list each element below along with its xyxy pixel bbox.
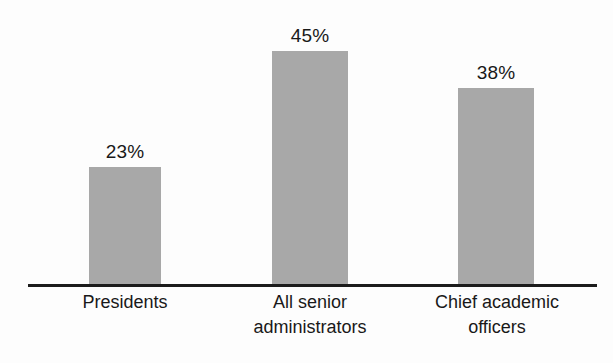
bar-rect-1 <box>272 51 348 285</box>
bar-group-1: 45% <box>272 51 348 285</box>
bar-value-label-1: 45% <box>291 25 329 47</box>
bar-group-0: 23% <box>89 167 161 285</box>
x-axis-baseline <box>28 284 597 287</box>
category-label-0-line-0: Presidents <box>55 290 195 315</box>
plot-area: 23% 45% 38% <box>0 0 613 285</box>
category-label-0: Presidents <box>55 290 195 315</box>
category-label-2: Chief academic officers <box>424 290 570 340</box>
bar-rect-2 <box>458 88 534 285</box>
bar-value-label-0: 23% <box>106 141 144 163</box>
category-label-2-line-0: Chief academic <box>424 290 570 315</box>
bar-chart: 23% 45% 38% Presidents All senior admini… <box>0 0 613 363</box>
bar-rect-0 <box>89 167 161 285</box>
category-label-1-line-0: All senior <box>240 290 380 315</box>
category-label-2-line-1: officers <box>424 315 570 340</box>
category-label-1: All senior administrators <box>240 290 380 340</box>
bar-value-label-2: 38% <box>477 62 515 84</box>
category-label-1-line-1: administrators <box>240 315 380 340</box>
category-axis-labels: Presidents All senior administrators Chi… <box>0 290 613 363</box>
bar-group-2: 38% <box>458 88 534 285</box>
